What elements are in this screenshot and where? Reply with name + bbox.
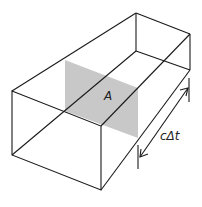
length-label: cΔt — [160, 129, 181, 143]
length-dimension — [138, 78, 189, 169]
box-diagram-svg: A cΔt — [0, 0, 202, 207]
diagram: A cΔt — [0, 0, 202, 207]
area-label: A — [103, 89, 112, 103]
